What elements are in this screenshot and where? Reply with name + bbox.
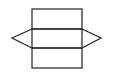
triangle-right-face <box>82 29 101 48</box>
triangle-left-face <box>12 29 32 48</box>
rect-top-face <box>32 9 82 29</box>
rect-bottom-face <box>32 48 82 68</box>
rect-middle-face <box>32 29 82 48</box>
prism-net-diagram <box>0 0 114 74</box>
